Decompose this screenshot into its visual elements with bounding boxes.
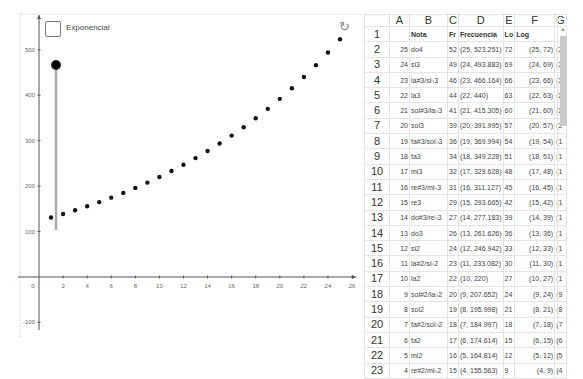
- row-header[interactable]: 8: [365, 134, 390, 149]
- cell[interactable]: si3: [410, 57, 448, 72]
- cell[interactable]: (12, 246.942): [458, 241, 503, 256]
- cell[interactable]: 49: [448, 57, 459, 72]
- cell[interactable]: 5: [390, 348, 410, 363]
- cell[interactable]: 72: [503, 42, 515, 57]
- cell[interactable]: 39: [503, 210, 515, 225]
- cell[interactable]: 9: [503, 363, 515, 378]
- cell[interactable]: (15, 293.665): [458, 195, 503, 210]
- cell[interactable]: (24, 493.883): [458, 57, 503, 72]
- row-header[interactable]: 11: [365, 179, 390, 194]
- cell[interactable]: Lo: [503, 27, 515, 42]
- cell[interactable]: 17: [448, 332, 459, 347]
- row-header[interactable]: 15: [365, 241, 390, 256]
- cell[interactable]: mi3: [410, 164, 448, 179]
- cell[interactable]: [390, 27, 410, 42]
- cell[interactable]: (10, 27): [515, 271, 555, 286]
- cell[interactable]: sol3: [410, 118, 448, 133]
- cell[interactable]: 52: [448, 42, 459, 57]
- row-header[interactable]: 23: [365, 363, 390, 378]
- cell[interactable]: 27: [503, 271, 515, 286]
- cell[interactable]: 54: [503, 134, 515, 149]
- cell[interactable]: 69: [503, 57, 515, 72]
- cell[interactable]: 31: [448, 179, 459, 194]
- cell[interactable]: fa3: [410, 149, 448, 164]
- cell[interactable]: do3: [410, 225, 448, 240]
- cell[interactable]: (4, 9): [515, 363, 555, 378]
- cell[interactable]: (25, 72): [515, 42, 555, 57]
- cell[interactable]: (9, 207.652): [458, 287, 503, 302]
- cell[interactable]: (21, 60): [515, 103, 555, 118]
- row-header[interactable]: 9: [365, 149, 390, 164]
- cell[interactable]: 30: [503, 256, 515, 271]
- cell[interactable]: 32: [448, 164, 459, 179]
- row-header[interactable]: 20: [365, 317, 390, 332]
- cell[interactable]: fa#2/sol♭2: [410, 317, 448, 332]
- cell[interactable]: (13, 261.626): [458, 225, 503, 240]
- scrollbar-thumb[interactable]: [560, 36, 567, 126]
- cell[interactable]: 15: [448, 363, 459, 378]
- cell[interactable]: (21, 415.305): [458, 103, 503, 118]
- cell[interactable]: 46: [448, 72, 459, 87]
- cell[interactable]: (5, 12): [515, 348, 555, 363]
- cell[interactable]: 33: [503, 241, 515, 256]
- cell[interactable]: si2: [410, 241, 448, 256]
- cell[interactable]: (4, 155.563): [458, 363, 503, 378]
- row-header[interactable]: 18: [365, 287, 390, 302]
- cell[interactable]: 7: [390, 317, 410, 332]
- cell[interactable]: 10: [390, 271, 410, 286]
- row-header[interactable]: 2: [365, 42, 390, 57]
- row-header[interactable]: 3: [365, 57, 390, 72]
- cell[interactable]: fa2: [410, 332, 448, 347]
- cell[interactable]: (7, 18): [515, 317, 555, 332]
- reset-icon[interactable]: ↻: [339, 20, 350, 33]
- scroll-up-arrow-icon[interactable]: ▲: [560, 26, 566, 32]
- cell[interactable]: 6: [390, 332, 410, 347]
- cell[interactable]: (11, 30): [515, 256, 555, 271]
- cell[interactable]: la2: [410, 271, 448, 286]
- row-header[interactable]: 19: [365, 302, 390, 317]
- cell[interactable]: la#3/si♭3: [410, 72, 448, 87]
- cell[interactable]: (8, 195.998): [458, 302, 503, 317]
- cell[interactable]: 17: [390, 164, 410, 179]
- row-header[interactable]: 21: [365, 332, 390, 347]
- cell[interactable]: (10, 220): [458, 271, 503, 286]
- cell[interactable]: 66: [503, 72, 515, 87]
- cell[interactable]: (9, 24): [515, 287, 555, 302]
- cell[interactable]: (14, 39): [515, 210, 555, 225]
- exponencial-checkbox[interactable]: [45, 21, 61, 37]
- cell[interactable]: (6, 174.614): [458, 332, 503, 347]
- cell[interactable]: 45: [503, 179, 515, 194]
- row-header[interactable]: 1: [365, 27, 390, 42]
- cell[interactable]: 18: [390, 149, 410, 164]
- cell[interactable]: (7, 184.997): [458, 317, 503, 332]
- cell[interactable]: re#2/mi♭2: [410, 363, 448, 378]
- cell[interactable]: 24: [503, 287, 515, 302]
- cell[interactable]: (8, 21): [515, 302, 555, 317]
- cell[interactable]: 15: [503, 332, 515, 347]
- cell[interactable]: (11, 233.082): [458, 256, 503, 271]
- cell[interactable]: 21: [390, 103, 410, 118]
- column-header-a[interactable]: A: [390, 15, 410, 27]
- cell[interactable]: (20, 391.995): [458, 118, 503, 133]
- cell[interactable]: 20: [448, 287, 459, 302]
- cell[interactable]: (12, 33): [515, 241, 555, 256]
- cell[interactable]: do#3/re♭3: [410, 210, 448, 225]
- column-header-e[interactable]: E: [503, 15, 515, 27]
- cell[interactable]: 18: [503, 317, 515, 332]
- row-header[interactable]: 6: [365, 103, 390, 118]
- row-header[interactable]: 13: [365, 210, 390, 225]
- cell[interactable]: 4: [390, 363, 410, 378]
- cell[interactable]: 34: [448, 149, 459, 164]
- cell[interactable]: 60: [503, 103, 515, 118]
- cell[interactable]: Log: [515, 27, 555, 42]
- cell[interactable]: (19, 54): [515, 134, 555, 149]
- graphics-view[interactable]: 02468101214161820222426-1001002003004005…: [0, 0, 362, 338]
- cell[interactable]: 9: [390, 287, 410, 302]
- column-header-f[interactable]: F: [515, 15, 555, 27]
- column-header-c[interactable]: C: [448, 15, 459, 27]
- cell[interactable]: sol#2/la♭2: [410, 287, 448, 302]
- cell[interactable]: re#3/mi♭3: [410, 179, 448, 194]
- cell[interactable]: 16: [390, 179, 410, 194]
- cell[interactable]: Nota: [410, 27, 448, 42]
- cell[interactable]: (22, 63): [515, 88, 555, 103]
